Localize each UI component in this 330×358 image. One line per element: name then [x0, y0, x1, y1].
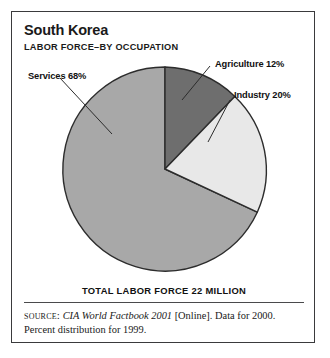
source-divider [24, 302, 304, 303]
slice-label-agriculture: Agriculture 12% [215, 59, 284, 69]
source-note: Source: CIA World Factbook 2001 [Online]… [24, 308, 308, 337]
source-title: CIA World Factbook 2001 [63, 310, 172, 321]
total-labor-force-caption: TOTAL LABOR FORCE 22 MILLION [12, 285, 316, 296]
figure-frame: South Korea LABOR FORCE–BY OCCUPATION Se… [11, 11, 315, 343]
slice-label-industry: Industry 20% [234, 90, 291, 100]
slice-label-services: Services 68% [28, 71, 86, 81]
source-kicker: Source: [24, 309, 60, 321]
